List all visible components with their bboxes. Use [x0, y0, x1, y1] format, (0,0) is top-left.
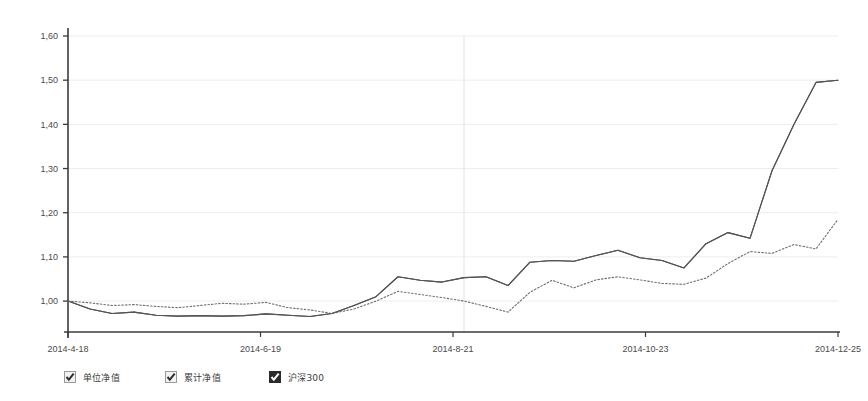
legend-item-csi300[interactable]: 沪深300	[269, 369, 324, 385]
x-tick-label: 2014-8-21	[432, 344, 473, 354]
check-icon	[270, 372, 280, 382]
chart-plot-area: 1,001,101,201,301,401,501,602014-4-18201…	[0, 0, 868, 401]
y-tick-label: 1,50	[40, 75, 58, 85]
y-tick-label: 1,20	[40, 208, 58, 218]
y-tick-label: 1,00	[40, 296, 58, 306]
y-tick-label: 1,30	[40, 164, 58, 174]
x-tick-label: 2014-4-18	[47, 344, 88, 354]
check-icon	[65, 372, 75, 382]
legend-item-cumulative-net-value[interactable]: 累计净值	[165, 369, 221, 385]
legend-label: 沪深300	[288, 371, 324, 384]
fund-performance-chart: 1,001,101,201,301,401,501,602014-4-18201…	[0, 0, 868, 401]
legend-checkbox-icon[interactable]	[165, 371, 177, 383]
legend-label: 单位净值	[83, 371, 120, 384]
y-tick-label: 1,40	[40, 120, 58, 130]
y-tick-label: 1,10	[40, 252, 58, 262]
series-line-3	[68, 219, 838, 313]
x-tick-label: 2014-10-23	[622, 344, 668, 354]
y-tick-label: 1,60	[40, 31, 58, 41]
x-tick-label: 2014-6-19	[240, 344, 281, 354]
series-line-1	[68, 80, 838, 316]
x-tick-label: 2014-12-25	[815, 344, 861, 354]
legend-checkbox-icon[interactable]	[269, 371, 281, 383]
chart-legend: 单位净值 累计净值 沪深300	[0, 366, 868, 388]
series-line-2	[68, 80, 838, 316]
legend-item-unit-net-value[interactable]: 单位净值	[64, 369, 120, 385]
legend-label: 累计净值	[184, 371, 221, 384]
legend-checkbox-icon[interactable]	[64, 371, 76, 383]
check-icon	[166, 372, 176, 382]
